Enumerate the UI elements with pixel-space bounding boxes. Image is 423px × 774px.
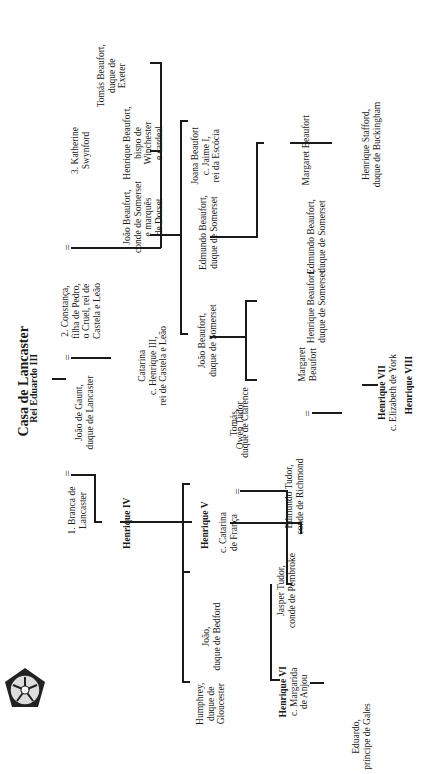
root-person: Rei Eduardo III xyxy=(29,346,40,430)
person-henrique-beaufort-bispo: Henrique Beaufort,bispo deWinchestere ca… xyxy=(122,98,164,188)
person-joao-gaunt: João de Gaunt,duque de Lancaster xyxy=(74,367,95,459)
person-henrique-v: Henrique V xyxy=(200,492,211,558)
connector-line xyxy=(160,62,162,248)
connector-line xyxy=(94,521,102,523)
connector-line xyxy=(182,681,190,683)
connector-line xyxy=(94,474,96,522)
person-edmundo-beaufort-1: Edmundo Beaufort,duque de Somerset xyxy=(198,189,219,277)
connector-line xyxy=(150,62,162,64)
person-joana-beaufort: Joana Beaufortc. Jaime I,rei da Escócia xyxy=(190,116,222,196)
connector-line xyxy=(182,483,184,683)
person-henrique-viii: Henrique VIII xyxy=(404,352,415,418)
connector-line xyxy=(150,150,160,152)
person-catarina-franca: c. Catarinade França xyxy=(218,503,239,563)
connector-line xyxy=(150,234,180,236)
person-tomas-beaufort: Tomás Beaufort,duque deExeter xyxy=(96,34,128,118)
connector-line xyxy=(180,120,188,122)
connector-line xyxy=(120,521,182,523)
connector-line xyxy=(71,474,95,476)
marriage-symbol: = xyxy=(302,410,313,416)
connector-line xyxy=(286,583,292,585)
connector-line xyxy=(210,336,246,338)
connector-line xyxy=(230,522,300,524)
person-henrique-vii: Henrique VIIc. Elizabeth de York xyxy=(377,344,398,442)
connector-line xyxy=(245,300,257,302)
person-edmundo-beaufort-2: Edmundo Beaufort,duque de Somerset xyxy=(306,191,327,283)
person-branca: 1. Branca deLancaster xyxy=(67,480,88,542)
connector-line xyxy=(300,522,302,534)
tudor-rose-icon xyxy=(2,666,48,712)
person-owen-tudor: Owen Tudor xyxy=(235,395,246,455)
person-henrique-iv: Henrique IV xyxy=(122,492,133,554)
connector-line xyxy=(182,571,190,573)
connector-line xyxy=(180,333,188,335)
connector-line xyxy=(184,521,192,523)
person-eduardo-gales: Eduardo,príncipe de Gales xyxy=(351,696,372,774)
connector-line xyxy=(290,142,332,144)
connector-line xyxy=(270,584,272,680)
connector-line xyxy=(256,142,264,144)
connector-line xyxy=(180,120,182,335)
person-margaret-beaufort-2: Margaret Beaufort xyxy=(301,104,312,196)
person-joao-beaufort-duque: João Beaufort,duque de Somerset xyxy=(197,298,218,384)
connector-line xyxy=(310,682,324,684)
connector-line xyxy=(270,679,280,681)
person-constanca: 2. Constança,filha de Pedro,o Cruel, rei… xyxy=(60,266,102,356)
connector-line xyxy=(286,490,288,584)
connector-line xyxy=(362,384,378,386)
connector-line xyxy=(182,483,190,485)
connector-line xyxy=(240,490,286,492)
connector-line xyxy=(245,300,247,380)
connector-line xyxy=(52,378,66,380)
connector-line xyxy=(210,236,256,238)
connector-line xyxy=(71,357,111,359)
connector-line xyxy=(312,412,342,414)
connector-line xyxy=(71,247,161,249)
person-katherine: 3. KatherineSwynford xyxy=(70,119,91,183)
person-joao-bedford: João,duque de Bedford xyxy=(201,596,222,678)
person-henrique-vi: Henrique VIc. Margaridade Anjou xyxy=(278,660,310,724)
connector-line xyxy=(245,379,257,381)
person-henrique-stafford: Henrique Stafford,duque de Buckingham xyxy=(361,90,382,200)
person-catarina-castela: Catarinac. Henrique III,rei de Castela e… xyxy=(137,311,169,421)
person-humphrey: Humphrey,duque deGloucester xyxy=(195,671,227,737)
connector-line xyxy=(256,142,258,238)
